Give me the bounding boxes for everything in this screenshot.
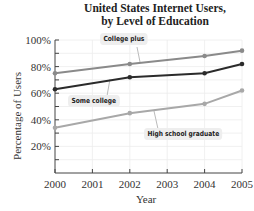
x-tick-label: 2005: [231, 178, 254, 190]
data-point: [128, 111, 133, 116]
series-line-0: [55, 51, 242, 74]
x-tick-label: 2004: [194, 178, 217, 190]
data-point: [240, 62, 245, 67]
data-point: [128, 75, 133, 80]
x-tick-label: 2000: [44, 178, 67, 190]
data-point: [202, 102, 207, 107]
y-tick-label: 100%: [25, 34, 51, 46]
data-point: [53, 87, 58, 92]
x-tick-label: 2001: [81, 178, 103, 190]
data-point: [53, 71, 58, 76]
data-point: [128, 62, 133, 67]
plot-area: 20%40%60%80%100%200020012002200320042005: [0, 0, 254, 211]
data-point: [202, 71, 207, 76]
callout-pointer: [137, 47, 140, 62]
y-tick-label: 20%: [31, 140, 51, 152]
x-tick-label: 2002: [119, 178, 141, 190]
data-point: [53, 125, 58, 130]
x-tick-label: 2003: [156, 178, 179, 190]
legend-some-college: Some college: [68, 95, 120, 107]
data-point: [202, 54, 207, 59]
series-line-1: [55, 64, 242, 89]
x-axis-label: Year: [136, 193, 156, 205]
data-point: [240, 88, 245, 93]
legend-college-plus: College plus: [100, 33, 148, 45]
y-axis-label: Percentage of Users: [11, 61, 23, 171]
data-point: [240, 48, 245, 53]
y-tick-label: 40%: [31, 114, 51, 126]
legend-high-school-graduate: High school graduate: [144, 128, 223, 140]
y-tick-label: 60%: [31, 87, 51, 99]
y-tick-label: 80%: [31, 61, 51, 73]
